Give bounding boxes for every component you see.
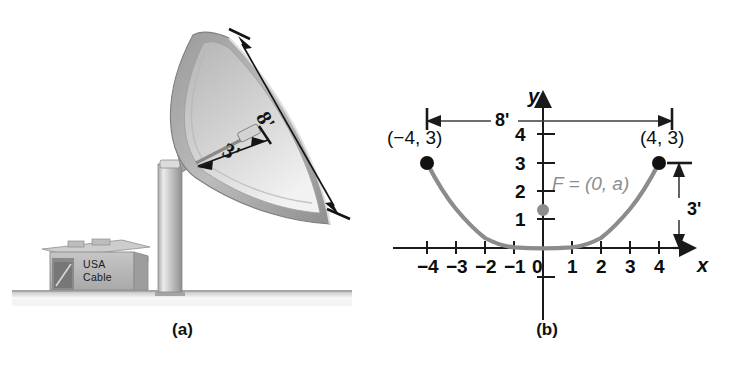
- y-tick-label-2: 2: [515, 182, 526, 201]
- depth-dimension-label: 3': [687, 200, 701, 218]
- x-tick-label-3: 3: [625, 257, 636, 276]
- caption-panel-a: (a): [0, 320, 365, 340]
- panel-b-graph: 4 3 2 1 −4 −3 −2 −1 0 1 2 3 4 y x (−4, 3…: [365, 0, 729, 366]
- x-tick-label-0: 0: [532, 257, 543, 276]
- caption-panel-b: (b): [365, 320, 729, 340]
- parabola-graph: [365, 0, 729, 366]
- panel-a-illustration: 8' 3' USA Cable (a): [0, 0, 365, 366]
- y-axis-label: y: [528, 86, 539, 106]
- y-tick-label-3: 3: [515, 154, 526, 173]
- x-tick-label--2: −2: [475, 257, 497, 276]
- dimension-width-8ft: [426, 108, 673, 130]
- y-tick-label-4: 4: [515, 125, 526, 144]
- focus-point-label: F = (0, a): [552, 174, 629, 193]
- support-pole: [155, 160, 185, 296]
- left-endpoint-label: (−4, 3): [387, 128, 442, 147]
- right-endpoint-label: (4, 3): [640, 128, 684, 147]
- equipment-box-line2: Cable: [83, 271, 112, 284]
- width-dimension-label: 8': [495, 111, 509, 129]
- x-tick-label-2: 2: [596, 257, 607, 276]
- x-tick-label-4: 4: [654, 257, 665, 276]
- satellite-dish-illustration: [0, 0, 365, 366]
- x-tick-label--1: −1: [504, 257, 526, 276]
- equipment-box-line1: USA: [83, 258, 106, 271]
- y-tick-label-1: 1: [515, 210, 526, 229]
- focus-point: [537, 204, 549, 216]
- x-tick-label--4: −4: [417, 257, 439, 276]
- x-axis-label: x: [697, 255, 708, 275]
- x-tick-label-1: 1: [567, 257, 578, 276]
- x-tick-label--3: −3: [446, 257, 468, 276]
- figure-root: 8' 3' USA Cable (a): [0, 0, 729, 366]
